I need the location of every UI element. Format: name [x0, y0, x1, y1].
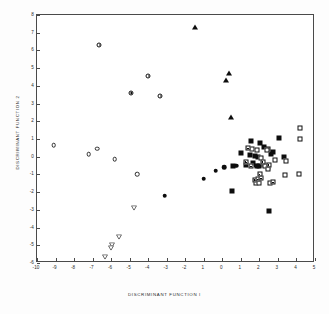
x-axis-tick	[315, 258, 316, 261]
data-point-open-down-triangle	[102, 245, 108, 250]
y-axis-tick	[37, 15, 40, 16]
x-axis-tick	[185, 258, 186, 261]
data-point-half-filled-circle	[146, 74, 151, 79]
x-axis-tick	[296, 258, 297, 261]
x-axis-tick	[74, 258, 75, 261]
x-axis-tick	[222, 258, 223, 261]
y-axis-tick	[37, 174, 40, 175]
data-point-half-filled-square	[258, 171, 263, 176]
x-axis-tick-label: 2	[257, 265, 260, 270]
x-axis-tick	[93, 258, 94, 261]
x-axis-tick	[259, 258, 260, 261]
y-axis-tick-label: 6	[26, 47, 34, 52]
x-axis-tick-label: -3	[164, 265, 168, 270]
data-point-open-square	[298, 137, 303, 142]
data-point-filled-square	[268, 152, 273, 157]
y-axis-tick	[37, 33, 40, 34]
data-point-half-filled-circle	[128, 90, 133, 95]
x-axis-tick-label: 1	[239, 265, 242, 270]
data-point-open-square	[283, 173, 288, 178]
plot-area	[37, 15, 313, 261]
x-axis-tick	[148, 258, 149, 261]
y-axis-tick	[37, 263, 40, 264]
data-point-open-down-triangle	[108, 236, 114, 241]
data-point-open-down-triangle	[131, 197, 137, 202]
x-axis-tick-label: 3	[276, 265, 279, 270]
data-point-open-circle	[51, 143, 56, 148]
x-axis-tick-label: -5	[127, 265, 131, 270]
y-axis-tick	[37, 121, 40, 122]
x-axis-tick	[278, 258, 279, 261]
data-point-half-filled-circle	[97, 43, 102, 48]
y-axis-tick-label: 3	[26, 100, 34, 105]
data-point-open-square	[257, 181, 262, 186]
y-axis-tick-label: 2	[26, 118, 34, 123]
y-axis-tick	[37, 139, 40, 140]
scatter-plot-figure: -10-9-8-7-6-5-4-3-21012345876543210-1-2-…	[0, 0, 329, 314]
x-axis-tick	[37, 258, 38, 261]
data-point-filled-circle	[163, 193, 168, 198]
data-point-half-filled-square	[261, 160, 266, 165]
y-axis-tick	[37, 210, 40, 211]
y-axis-tick-label: 1	[26, 136, 34, 141]
y-axis-tick-label: -4	[26, 224, 34, 229]
y-axis-tick	[37, 157, 40, 158]
data-point-filled-square	[238, 151, 243, 156]
data-point-half-filled-square	[266, 162, 271, 167]
x-axis-tick-label: -6	[108, 265, 112, 270]
data-point-filled-circle	[222, 165, 227, 170]
data-point-open-circle	[95, 146, 100, 151]
y-axis-tick-label: 8	[26, 12, 34, 17]
data-point-open-square	[265, 167, 270, 172]
data-point-filled-square	[266, 208, 271, 213]
data-point-open-square	[273, 158, 278, 163]
y-axis-tick-label: -1	[26, 171, 34, 176]
data-point-open-square	[284, 159, 289, 164]
y-axis-tick-label: 0	[26, 153, 34, 158]
data-point-open-square	[298, 126, 303, 131]
y-axis-tick	[37, 86, 40, 87]
data-point-half-filled-square	[249, 164, 254, 169]
data-point-half-filled-circle	[158, 93, 163, 98]
data-point-half-filled-square	[271, 180, 276, 185]
data-point-filled-square	[230, 163, 235, 168]
y-axis-tick	[37, 228, 40, 229]
data-point-filled-triangle	[223, 77, 229, 82]
data-point-filled-square	[229, 189, 234, 194]
data-point-filled-circle	[214, 169, 219, 174]
data-point-filled-circle	[202, 177, 207, 182]
y-axis-tick	[37, 104, 40, 105]
y-axis-tick-label: -3	[26, 206, 34, 211]
y-axis-tick-label: -2	[26, 189, 34, 194]
y-axis-tick	[37, 50, 40, 51]
x-axis-tick	[167, 258, 168, 261]
y-axis-title: DISCRIMINANT FUNCTION 2	[15, 78, 20, 188]
data-point-filled-triangle	[226, 71, 232, 76]
data-point-filled-triangle	[228, 114, 234, 119]
data-point-open-square	[254, 147, 259, 152]
x-axis-tick-label: 5	[313, 265, 316, 270]
x-axis-tick-label: 0	[220, 265, 223, 270]
y-axis-tick-label: -6	[26, 260, 34, 265]
x-axis-tick-label: -7	[89, 265, 93, 270]
y-axis-tick	[37, 192, 40, 193]
x-axis-tick	[241, 258, 242, 261]
data-point-filled-square	[249, 138, 254, 143]
data-point-filled-triangle	[192, 25, 198, 30]
plot-frame	[36, 14, 314, 262]
y-axis-tick-label: 7	[26, 29, 34, 34]
x-axis-tick-label: -4	[145, 265, 149, 270]
x-axis-tick	[204, 258, 205, 261]
data-point-open-square	[264, 147, 269, 152]
x-axis-title: DISCRIMINANT FUNCTION I	[0, 292, 329, 297]
y-axis-tick	[37, 245, 40, 246]
data-point-open-down-triangle	[116, 226, 122, 231]
y-axis-tick-label: 5	[26, 65, 34, 70]
y-axis-tick-label: 4	[26, 82, 34, 87]
x-axis-tick	[111, 258, 112, 261]
x-axis-tick-label: 1	[201, 265, 204, 270]
data-point-open-circle	[135, 172, 140, 177]
data-point-open-circle	[113, 157, 118, 162]
y-axis-tick-label: -5	[26, 242, 34, 247]
data-point-half-filled-square	[259, 175, 264, 180]
